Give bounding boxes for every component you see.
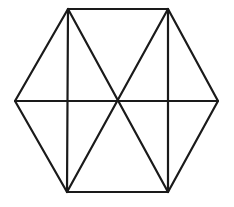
left-vertical-chord-line bbox=[67, 9, 68, 192]
hexagon-figure-svg bbox=[0, 0, 234, 207]
hexagon-figure-canvas bbox=[0, 0, 234, 207]
